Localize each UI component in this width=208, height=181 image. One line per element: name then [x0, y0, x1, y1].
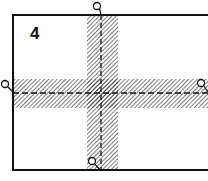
- panel-label: 4: [30, 24, 39, 44]
- marker-top-icon: [94, 3, 102, 16]
- marker-left-icon: [2, 81, 14, 93]
